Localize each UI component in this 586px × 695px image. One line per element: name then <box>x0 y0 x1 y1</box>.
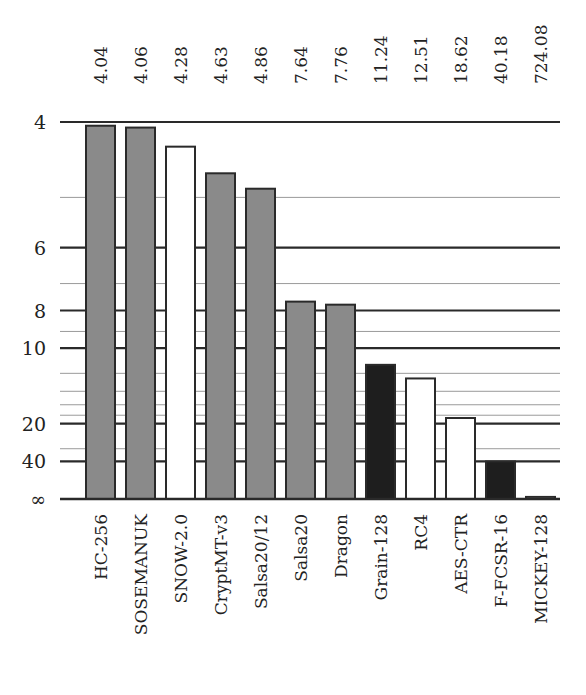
category-label: AES-CTR <box>451 513 471 595</box>
y-tick-label: 6 <box>34 237 46 259</box>
value-label: 18.62 <box>451 35 471 84</box>
category-label: SOSEMANUK <box>131 514 151 636</box>
value-label: 11.24 <box>371 35 391 84</box>
bar-dragon <box>326 305 355 499</box>
value-label: 4.28 <box>171 46 191 84</box>
category-label: HC-256 <box>91 514 111 580</box>
value-labels: 4.044.064.284.634.867.647.7611.2412.5118… <box>91 25 551 84</box>
category-label: CryptMT-v3 <box>211 514 231 615</box>
bar-hc-256 <box>86 126 115 499</box>
value-label: 4.63 <box>211 46 231 84</box>
bar-salsa20-12 <box>246 189 275 499</box>
category-label: F-FCSR-16 <box>491 514 511 607</box>
bar-aes-ctr <box>446 418 475 499</box>
value-label: 4.04 <box>91 46 111 84</box>
y-tick-label: 20 <box>22 413 46 435</box>
category-labels: HC-256SOSEMANUKSNOW-2.0CryptMT-v3Salsa20… <box>91 513 551 635</box>
y-tick-label: 10 <box>22 337 46 359</box>
bars <box>86 126 555 499</box>
bar-grain-128 <box>366 365 395 499</box>
category-label: SNOW-2.0 <box>171 514 191 603</box>
value-label: 7.64 <box>291 46 311 84</box>
y-tick-label: ∞ <box>30 488 46 510</box>
value-label: 4.86 <box>251 46 271 84</box>
bar-snow-2-0 <box>166 147 195 499</box>
category-label: Dragon <box>331 514 351 578</box>
category-label: Salsa20 <box>291 514 311 582</box>
category-label: MICKEY-128 <box>531 514 551 624</box>
bar-cryptmt-v3 <box>206 173 235 499</box>
bar-salsa20 <box>286 302 315 499</box>
y-tick-label: 4 <box>34 111 46 133</box>
category-label: Grain-128 <box>371 514 391 600</box>
bar-sosemanuk <box>126 128 155 499</box>
category-label: Salsa20/12 <box>251 514 271 609</box>
value-label: 724.08 <box>531 25 551 84</box>
y-axis-tick-labels: 468102040∞ <box>22 111 46 510</box>
bar-chart: 468102040∞ 4.044.064.284.634.867.647.761… <box>0 0 586 695</box>
y-tick-label: 40 <box>22 450 46 472</box>
value-label: 40.18 <box>491 35 511 84</box>
value-label: 4.06 <box>131 46 151 84</box>
bar-f-fcsr-16 <box>486 461 515 499</box>
category-label: RC4 <box>411 514 431 551</box>
value-label: 12.51 <box>411 35 431 84</box>
y-tick-label: 8 <box>34 300 46 322</box>
value-label: 7.76 <box>331 46 351 84</box>
bar-rc4 <box>406 378 435 499</box>
